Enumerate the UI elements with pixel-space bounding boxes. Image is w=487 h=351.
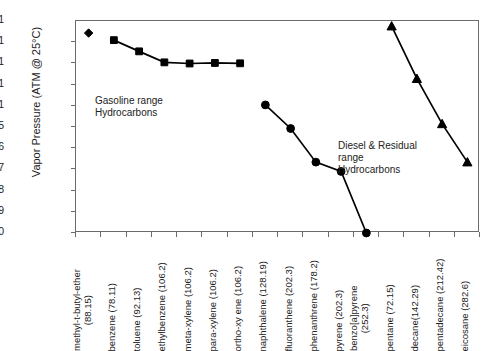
x-axis-tick-mark xyxy=(151,232,152,237)
x-axis-category-label: benzene (78.11) xyxy=(106,283,117,351)
y-axis-tick-mark xyxy=(71,41,75,42)
plot-area xyxy=(75,20,479,232)
data-point-square xyxy=(211,60,218,67)
y-axis-tick-mark xyxy=(71,211,75,212)
y-axis-tick-mark xyxy=(71,126,75,127)
y-axis-tick-mark xyxy=(71,62,75,63)
y-axis-tick-label: 1E-06 xyxy=(0,140,4,152)
x-axis-labels: methyl-t-butyl-ether(88.15)benzene (78.1… xyxy=(75,238,479,351)
y-axis-tick-mark xyxy=(71,84,75,85)
x-axis-tick-mark xyxy=(454,232,455,237)
y-axis-tick-label: 1E-08 xyxy=(0,183,4,195)
data-point-square xyxy=(237,60,244,67)
series-line xyxy=(114,40,240,63)
x-axis-tick-mark xyxy=(429,232,430,237)
x-axis-category-label: pentadecane (212.42) xyxy=(435,258,446,351)
annotation-line: range xyxy=(338,152,417,164)
y-axis-tick-mark xyxy=(71,147,75,148)
x-axis-category-label: ethylbenzene (106.2) xyxy=(157,262,168,351)
x-axis-tick-mark xyxy=(252,232,253,237)
data-point-triangle xyxy=(438,119,447,127)
data-point-diamond xyxy=(84,29,92,37)
x-axis-category-label: pentane (72.15) xyxy=(384,284,395,351)
annotation-line: Hydrocarbons xyxy=(338,164,417,176)
annotation-diesel-range: Diesel & ResidualrangeHydrocarbons xyxy=(338,140,417,176)
y-axis-tick-label: 1E-09 xyxy=(0,204,4,216)
y-axis-tick-label: 1E-05 xyxy=(0,119,4,131)
x-axis-category-label: ortho-xy ene (106.2) xyxy=(233,265,244,351)
x-axis-category-label: toluene (92.13) xyxy=(132,287,143,351)
data-point-circle xyxy=(261,101,269,109)
data-point-circle xyxy=(287,125,295,133)
x-axis-category-label: meta-xylene (106.2) xyxy=(182,267,193,351)
series-layer xyxy=(76,21,480,233)
y-axis-tick-label: 0.0001 xyxy=(0,98,4,110)
x-axis-tick-mark xyxy=(176,232,177,237)
data-point-circle xyxy=(312,158,320,166)
data-point-square xyxy=(136,48,143,55)
annotation-line: Hydrocarbons xyxy=(95,107,163,119)
y-axis-tick-label: 1E-07 xyxy=(0,161,4,173)
data-point-square xyxy=(161,59,168,66)
y-axis-tick-mark xyxy=(71,105,75,106)
y-axis-tick-label: 1 xyxy=(0,13,4,25)
data-point-square xyxy=(110,37,117,44)
x-axis-tick-mark xyxy=(75,232,76,237)
annotation-gasoline-range: Gasoline rangeHydrocarbons xyxy=(95,95,163,119)
y-axis-tick-label: 0.1 xyxy=(0,34,4,46)
x-axis-category-label: benzo[a]pyrene(252.3) xyxy=(349,286,370,351)
data-point-circle xyxy=(362,229,370,237)
x-axis-category-label: phenanthrene (178.2) xyxy=(308,260,319,351)
x-axis-category-label: para-xylene (106.2) xyxy=(207,269,218,351)
x-axis-category-label: pyrene (202.3) xyxy=(334,289,345,351)
y-axis-tick-mark xyxy=(71,168,75,169)
annotation-line: Gasoline range xyxy=(95,95,163,107)
vapor-pressure-chart: Vapor Pressure (ATM @ 25°C) 10.10.010.00… xyxy=(0,0,487,351)
annotation-line: Diesel & Residual xyxy=(338,140,417,152)
x-axis-tick-mark xyxy=(227,232,228,237)
x-axis-category-label: methyl-t-butyl-ether(88.15) xyxy=(72,269,93,351)
y-axis-tick-label: 1E-10 xyxy=(0,225,4,237)
x-axis-tick-mark xyxy=(126,232,127,237)
x-axis-category-label: eicosane (282.6) xyxy=(460,280,471,351)
x-axis-tick-mark xyxy=(328,232,329,237)
x-axis-tick-mark xyxy=(277,232,278,237)
y-axis-title: Vapor Pressure (ATM @ 25°C) xyxy=(30,2,42,202)
x-axis-tick-mark xyxy=(201,232,202,237)
plot-inner xyxy=(76,21,478,231)
y-axis-tick-label: 0.01 xyxy=(0,55,4,67)
x-axis-category-label: naphthalene (128.19) xyxy=(258,261,269,351)
data-point-square xyxy=(186,60,193,67)
x-axis-tick-mark xyxy=(378,232,379,237)
x-axis-tick-mark xyxy=(100,232,101,237)
x-axis-category-label: decane(142.29) xyxy=(409,284,420,351)
x-axis-tick-mark xyxy=(302,232,303,237)
data-point-triangle xyxy=(387,22,396,30)
y-axis-tick-label: 0.001 xyxy=(0,77,4,89)
x-axis-tick-mark xyxy=(479,232,480,237)
x-axis-tick-mark xyxy=(403,232,404,237)
y-axis-tick-mark xyxy=(71,190,75,191)
x-axis-category-label: fluoranthene (202.3) xyxy=(283,265,294,351)
data-point-triangle xyxy=(412,74,421,82)
x-axis-tick-mark xyxy=(353,232,354,237)
